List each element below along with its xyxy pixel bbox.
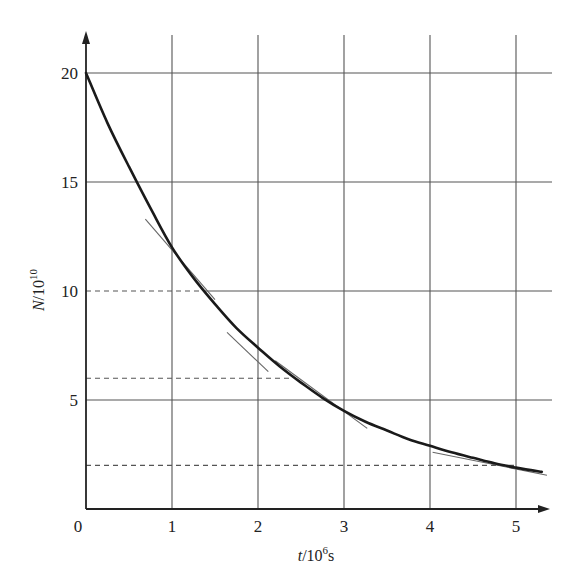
- y-tick-label: 15: [61, 173, 78, 192]
- decay-chart: 0123455101520 t/106s N/1010: [0, 0, 576, 580]
- y-axis-label: N/1010: [27, 268, 47, 312]
- x-tick-label: 1: [168, 517, 177, 536]
- tangent-line: [433, 452, 547, 475]
- x-tick-label: 4: [426, 517, 435, 536]
- decay-curve: [86, 73, 542, 472]
- y-tick-label: 20: [61, 64, 78, 83]
- decay-curve-line: [86, 73, 542, 472]
- x-axis-label: t/106s: [298, 544, 335, 564]
- x-tick-label: 3: [340, 517, 349, 536]
- x-axis-arrow-icon: [538, 505, 550, 513]
- grid-lines: [86, 35, 552, 509]
- reference-lines: [86, 291, 516, 465]
- x-tick-label: 5: [512, 517, 521, 536]
- axes: [82, 31, 550, 513]
- y-tick-label: 5: [70, 391, 79, 410]
- tangent-lines: [145, 219, 547, 475]
- y-tick-label: 10: [61, 282, 78, 301]
- x-tick-label: 0: [74, 517, 83, 536]
- x-tick-label: 2: [254, 517, 263, 536]
- y-axis-arrow-icon: [82, 31, 90, 44]
- tangent-line: [275, 361, 367, 429]
- tick-labels: 0123455101520: [61, 64, 520, 536]
